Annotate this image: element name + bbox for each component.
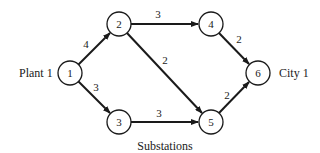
weight-1-3: 3 [93, 81, 99, 93]
weight-3-5: 3 [156, 107, 162, 119]
network-diagram: 4 3 3 2 3 2 2 1 2 3 4 5 6 [0, 0, 320, 153]
node-4-label: 4 [208, 18, 214, 30]
node-4: 4 [199, 12, 223, 36]
weight-2-5: 2 [162, 54, 168, 66]
edges [78, 24, 249, 122]
node-1: 1 [58, 61, 82, 85]
source-label: Plant 1 [19, 66, 53, 80]
node-6: 6 [246, 61, 270, 85]
node-2: 2 [107, 12, 131, 36]
node-5-label: 5 [208, 116, 214, 128]
weight-5-6: 2 [224, 89, 230, 101]
node-5: 5 [199, 110, 223, 134]
weight-4-6: 2 [236, 33, 242, 45]
edge-4-6 [219, 33, 249, 64]
edge-2-5 [127, 33, 202, 113]
node-3: 3 [107, 110, 131, 134]
node-3-label: 3 [116, 116, 122, 128]
node-6-label: 6 [255, 67, 261, 79]
sink-label: City 1 [279, 66, 309, 80]
substations-label: Substations [137, 139, 193, 153]
node-2-label: 2 [116, 18, 122, 30]
weight-2-4: 3 [155, 8, 161, 20]
weight-1-2: 4 [83, 38, 89, 50]
node-1-label: 1 [67, 67, 73, 79]
